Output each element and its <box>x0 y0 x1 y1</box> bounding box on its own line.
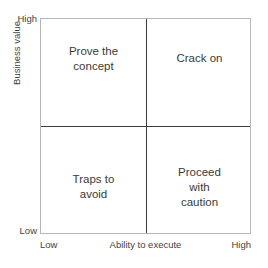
y-axis-title: Business value <box>10 6 24 100</box>
quadrant-top-left-label: Prove the concept <box>69 44 118 74</box>
quadrant-bottom-left: Traps to avoid <box>41 127 146 235</box>
quadrant-bottom-left-label: Traps to avoid <box>73 172 115 202</box>
plot-area: Prove the concept Crack on Traps to avoi… <box>40 18 251 234</box>
quadrant-bottom-right-label: Proceed with caution <box>178 165 221 210</box>
quadrant-top-right: Crack on <box>147 19 252 126</box>
x-axis-title: Ability to execute <box>40 239 251 251</box>
quadrant-top-right-label: Crack on <box>176 51 222 66</box>
quadrant-top-left: Prove the concept <box>41 19 146 126</box>
quadrant-matrix-chart: High Low Business value Prove the concep… <box>0 0 268 268</box>
x-axis-tick-high: High <box>222 239 251 251</box>
quadrant-bottom-right: Proceed with caution <box>147 127 252 235</box>
horizontal-divider-line <box>41 126 250 127</box>
y-axis-tick-low: Low <box>12 225 37 236</box>
